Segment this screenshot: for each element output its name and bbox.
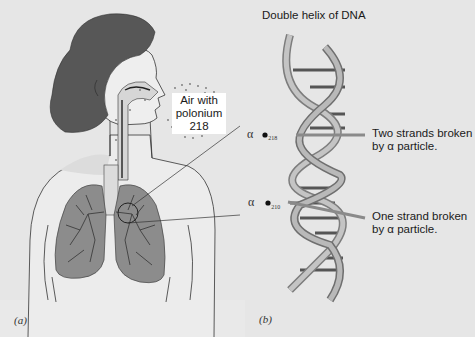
one-strand-line-1: One strand broken bbox=[372, 210, 467, 223]
air-label-line-2: polonium bbox=[174, 107, 224, 120]
dna-title: Double helix of DNA bbox=[262, 9, 366, 22]
air-label-line-3: 218 bbox=[174, 120, 224, 133]
figure-illustration bbox=[0, 0, 475, 337]
one-strand-line-2: by α particle. bbox=[372, 223, 467, 236]
alpha-symbol: α bbox=[248, 195, 254, 209]
air-polonium-label: Air with polonium 218 bbox=[172, 93, 226, 134]
alpha-particle-218: α 218 bbox=[247, 127, 265, 142]
two-strands-line-2: by α particle. bbox=[372, 140, 472, 153]
alpha-particle-210: α 210 bbox=[248, 195, 266, 210]
air-label-line-1: Air with bbox=[174, 94, 224, 107]
two-strands-line-1: Two strands broken bbox=[372, 127, 472, 140]
panel-label-a: (a) bbox=[14, 314, 27, 326]
one-strand-broken-label: One strand broken by α particle. bbox=[372, 210, 467, 236]
two-strands-broken-label: Two strands broken by α particle. bbox=[372, 127, 472, 153]
alpha-subscript: 210 bbox=[271, 204, 280, 210]
alpha-symbol: α bbox=[247, 127, 253, 141]
panel-label-b: (b) bbox=[259, 313, 272, 325]
alpha-subscript: 218 bbox=[268, 135, 277, 141]
